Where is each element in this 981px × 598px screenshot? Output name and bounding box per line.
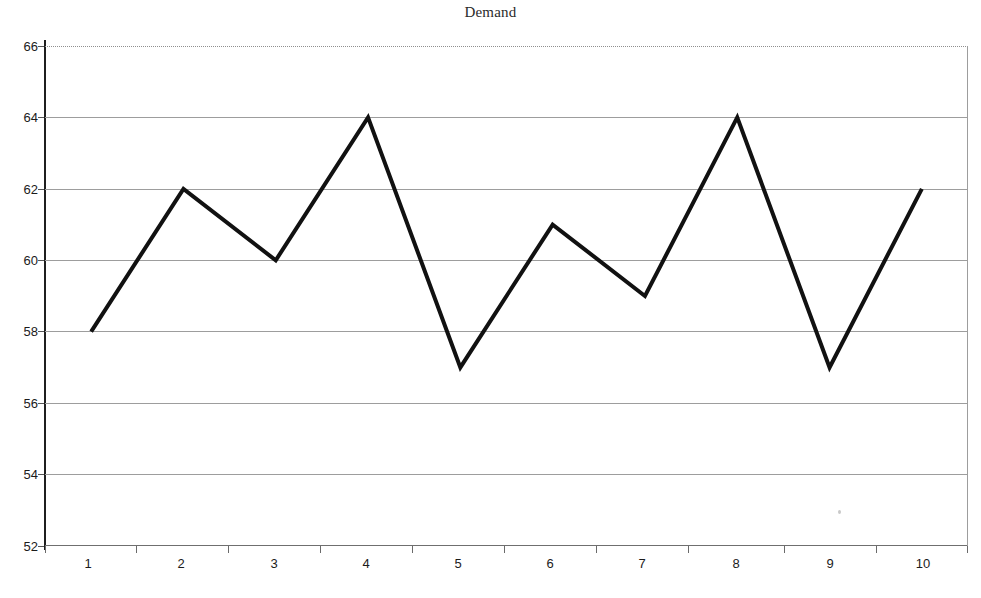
x-tick-mark-9 <box>876 546 877 553</box>
x-tick-mark-0 <box>45 546 46 553</box>
gridline-62 <box>45 189 968 190</box>
x-tick-label-6: 6 <box>520 556 580 571</box>
x-tick-label-10: 10 <box>893 556 953 571</box>
x-tick-mark-8 <box>784 546 785 553</box>
x-tick-label-2: 2 <box>151 556 211 571</box>
y-tick-label-66: 66 <box>2 39 38 54</box>
scan-artifact-speck <box>838 510 841 514</box>
x-tick-mark-2 <box>228 546 229 553</box>
x-tick-label-4: 4 <box>336 556 396 571</box>
y-tick-label-52: 52 <box>2 539 38 554</box>
y-tick-label-58: 58 <box>2 324 38 339</box>
x-tick-label-9: 9 <box>800 556 860 571</box>
gridline-66 <box>45 46 968 47</box>
gridline-60 <box>45 260 968 261</box>
x-tick-label-1: 1 <box>58 556 118 571</box>
x-tick-mark-5 <box>504 546 505 553</box>
plot-area <box>45 46 968 546</box>
x-tick-mark-6 <box>596 546 597 553</box>
y-axis: 66 64 62 60 58 56 54 52 <box>0 0 38 598</box>
x-tick-label-5: 5 <box>428 556 488 571</box>
x-axis-line <box>45 545 968 546</box>
y-tick-label-64: 64 <box>2 110 38 125</box>
chart-title: Demand <box>0 4 981 21</box>
gridline-64 <box>45 117 968 118</box>
chart-container: Demand 66 64 62 60 58 56 54 52 1 2 3 <box>0 0 981 598</box>
y-tick-label-56: 56 <box>2 396 38 411</box>
plot-right-border <box>967 46 968 546</box>
gridline-56 <box>45 403 968 404</box>
x-tick-label-8: 8 <box>706 556 766 571</box>
gridline-54 <box>45 474 968 475</box>
x-tick-label-3: 3 <box>244 556 304 571</box>
y-tick-label-60: 60 <box>2 253 38 268</box>
x-tick-mark-10 <box>967 546 968 553</box>
y-tick-label-62: 62 <box>2 182 38 197</box>
x-tick-mark-7 <box>688 546 689 553</box>
gridline-58 <box>45 331 968 332</box>
x-tick-mark-4 <box>412 546 413 553</box>
x-tick-mark-1 <box>136 546 137 553</box>
y-tick-label-54: 54 <box>2 467 38 482</box>
x-tick-label-7: 7 <box>612 556 672 571</box>
x-tick-mark-3 <box>320 546 321 553</box>
